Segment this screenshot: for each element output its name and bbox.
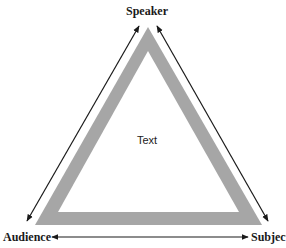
vertex-label-speaker: Speaker <box>126 5 168 17</box>
center-label-text: Text <box>137 135 157 146</box>
rhetorical-triangle-diagram <box>0 0 286 248</box>
vertex-label-subject: Subject <box>251 231 286 243</box>
triangle-inner <box>58 51 239 212</box>
vertex-label-audience: Audience <box>3 231 51 243</box>
